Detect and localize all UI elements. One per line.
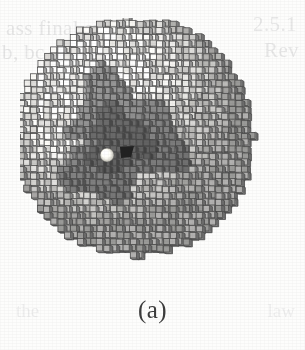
figure-caption: (a) [0, 296, 305, 324]
figure-page: ass final sys b, bc to 2.5.1 Rev the law… [0, 0, 305, 350]
voxel-sphere-figure [20, 18, 286, 290]
voxel-sphere-canvas [20, 18, 286, 290]
